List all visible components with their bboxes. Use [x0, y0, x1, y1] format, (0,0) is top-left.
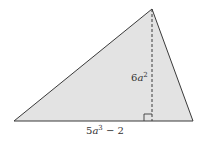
triangle-diagram: 6a2 5a3 − 2	[0, 0, 200, 144]
triangle	[14, 9, 193, 121]
base-label: 5a3 − 2	[86, 124, 124, 136]
